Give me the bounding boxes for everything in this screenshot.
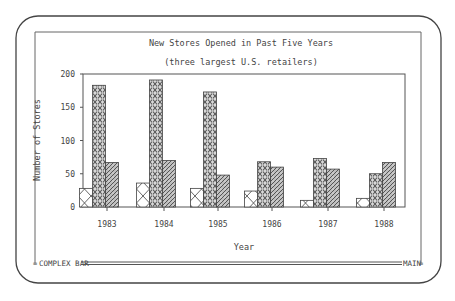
bar-3	[163, 160, 176, 207]
y-tick-label: 0	[70, 203, 75, 212]
bar-group-1984	[137, 80, 176, 207]
y-tick-label: 150	[61, 103, 76, 112]
bar-2	[258, 162, 271, 207]
bar-2	[370, 174, 383, 207]
status-bar: = COMPLEX BAR MAIN =	[33, 259, 423, 268]
bar-1	[245, 191, 258, 207]
x-axis: 198319841985198619871988	[97, 207, 393, 229]
bar-group-1987	[301, 158, 340, 207]
bar-group-1983	[80, 85, 119, 207]
chart-screen: New Stores Opened in Past Five Years (th…	[0, 0, 455, 301]
x-tick-label: 1984	[154, 220, 173, 229]
bar-3	[106, 162, 119, 207]
bar-2	[204, 92, 217, 207]
y-axis-label: Number of Stores	[32, 99, 42, 181]
x-tick-label: 1983	[97, 220, 116, 229]
status-mode-label: COMPLEX BAR	[39, 259, 89, 268]
bar-2	[314, 158, 327, 207]
x-tick-label: 1985	[208, 220, 227, 229]
bar-2	[93, 85, 106, 207]
chart-title: New Stores Opened in Past Five Years	[149, 38, 333, 48]
bar-group-1988	[357, 162, 396, 207]
y-tick-label: 50	[65, 170, 75, 179]
bar-1	[137, 183, 150, 207]
bar-1	[80, 188, 93, 207]
bar-1	[357, 198, 370, 207]
status-left-marker: =	[33, 260, 37, 268]
x-tick-label: 1986	[262, 220, 281, 229]
chart-subtitle: (three largest U.S. retailers)	[164, 57, 318, 67]
y-tick-label: 100	[61, 137, 76, 146]
bar-2	[150, 80, 163, 207]
bar-3	[271, 167, 284, 207]
bar-1	[191, 188, 204, 207]
x-tick-label: 1988	[374, 220, 393, 229]
bar-3	[383, 162, 396, 207]
bar-3	[217, 175, 230, 207]
bar-series-group	[80, 80, 396, 207]
bar-group-1985	[191, 92, 230, 207]
status-right-marker: =	[419, 260, 423, 268]
x-axis-label: Year	[234, 242, 254, 252]
bar-3	[327, 169, 340, 207]
bar-group-1986	[245, 162, 284, 207]
plot-area	[83, 74, 405, 207]
y-tick-label: 200	[61, 70, 76, 79]
bar-1	[301, 200, 314, 207]
x-tick-label: 1987	[318, 220, 337, 229]
